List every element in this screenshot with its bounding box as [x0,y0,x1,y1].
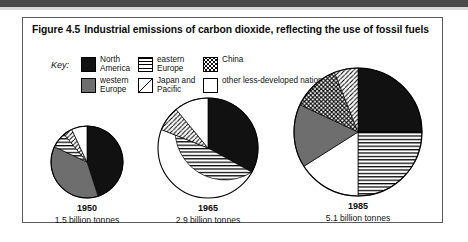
figure-title-text: Industrial emissions of carbon dioxide, … [84,24,429,35]
legend-item-western-europe: western Europe [81,77,129,94]
figure-title: Figure 4.5Industrial emissions of carbon… [32,24,429,35]
pie-slice-eastern-europe [358,132,422,196]
pie-1965-year: 1965 [144,203,272,213]
legend-label-japan-pacific: Japan and Pacific [157,77,195,94]
swatch-japan-pacific-icon [138,78,153,93]
scan-edge-band-light [0,7,468,10]
pie-1950-year: 1950 [37,203,137,213]
legend-item-eastern-europe: eastern Europe [138,56,184,73]
pie-1985-caption: 1985 5.1 billion tonnes [280,201,436,223]
pie-1950-amount: 1.5 billion tonnes [37,215,137,225]
pie-slice-north-america [358,68,422,132]
legend-item-japan-pacific: Japan and Pacific [138,77,195,94]
legend-label-north-america: North America [100,56,130,73]
figure-number: Figure 4.5 [32,24,80,35]
pie-chart-1985: 1985 5.1 billion tonnes [280,66,436,223]
pie-1965-caption: 1965 2.9 billion tonnes [144,203,272,225]
legend-item-china: China [203,56,243,72]
legend-label-eastern-europe: eastern Europe [157,56,184,73]
legend-label-western-europe: western Europe [100,77,129,94]
pie-chart-1965: 1965 2.9 billion tonnes [144,96,272,225]
pie-1950-svg [37,124,137,200]
swatch-eastern-europe-icon [138,57,153,72]
pie-1985-year: 1985 [280,201,436,211]
pie-1950-caption: 1950 1.5 billion tonnes [37,203,137,225]
pie-1985-svg [280,66,436,198]
swatch-western-europe-icon [81,78,96,93]
figure-panel: Figure 4.5Industrial emissions of carbon… [22,17,443,223]
scan-edge-band-dark [0,0,468,7]
pie-1965-svg [144,96,272,200]
legend-item-north-america: North America [81,56,130,73]
legend-key-label: Key: [51,60,69,70]
swatch-north-america-icon [81,57,96,72]
pie-chart-1950: 1950 1.5 billion tonnes [37,124,137,225]
pie-1965-amount: 2.9 billion tonnes [144,215,272,225]
swatch-other-nations-icon [203,78,218,93]
legend-label-china: China [222,56,243,65]
swatch-china-icon [203,57,218,72]
pie-1985-amount: 5.1 billion tonnes [280,213,436,223]
